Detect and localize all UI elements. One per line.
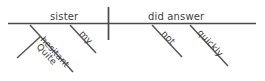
predicate-label: did answer	[148, 11, 205, 22]
modifier-label-not: not	[160, 29, 178, 47]
modifier-label-quickly: quickly	[196, 28, 226, 59]
sentence-diagram: sister did answer hesitant Quite my not …	[0, 0, 265, 81]
modifier-label-my: my	[78, 29, 95, 47]
sentence-diagram-canvas: sister did answer hesitant Quite my not …	[0, 0, 265, 81]
subject-label: sister	[50, 11, 79, 22]
